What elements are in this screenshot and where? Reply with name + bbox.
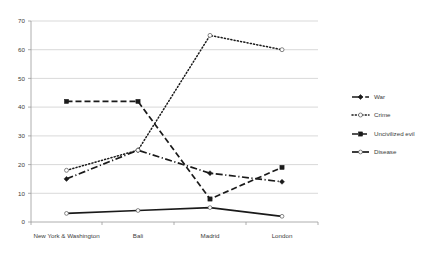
legend-label-disease: Disease [374,148,397,155]
point-crime-1 [136,148,140,152]
y-tick-0: 0 [22,218,26,225]
legend-label-crime: Crime [374,111,391,118]
point-uncivilized-evil-1 [136,99,140,103]
point-disease-3 [280,214,284,218]
y-tick-30: 30 [18,132,25,139]
point-uncivilized-evil-3 [280,165,284,169]
y-tick-10: 10 [18,190,25,197]
y-tick-20: 20 [18,161,25,168]
legend-marker-uncivilized-evil [358,132,362,136]
point-uncivilized-evil-2 [208,197,212,201]
x-label-madrid: Madrid [201,232,220,239]
point-crime-0 [65,168,69,172]
y-tick-50: 50 [18,75,25,82]
point-disease-0 [65,212,69,216]
y-tick-40: 40 [18,103,25,110]
x-label-new-york-washington: New York & Washington [33,232,100,239]
x-label-bali: Bali [133,232,143,239]
y-tick-70: 70 [18,17,25,24]
line-chart: 70 60 50 40 30 20 10 0 New York & Washin… [0,0,425,253]
point-disease-1 [136,209,140,213]
point-disease-2 [208,206,212,210]
legend-marker-crime [359,113,363,117]
point-crime-2 [208,33,212,37]
point-uncivilized-evil-0 [64,99,68,103]
legend-label-war: War [374,93,385,100]
x-label-london: London [272,232,293,239]
chart-canvas: 70 60 50 40 30 20 10 0 New York & Washin… [0,0,425,253]
legend-marker-disease [359,150,363,154]
y-tick-60: 60 [18,46,25,53]
legend-label-uncivilized-evil: Uncivilized evil [374,130,415,137]
chart-background [0,0,425,253]
point-crime-3 [280,48,284,52]
